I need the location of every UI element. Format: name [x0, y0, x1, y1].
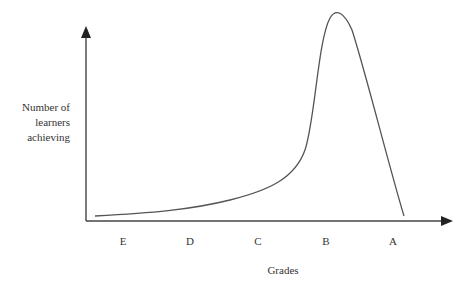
x-axis-arrow-icon	[441, 216, 453, 226]
y-axis-label-line: learners	[0, 115, 70, 130]
distribution-curve	[95, 13, 404, 216]
x-tick-label-d: D	[186, 235, 194, 247]
y-axis-label-line: achieving	[0, 130, 70, 145]
x-tick-label-a: A	[389, 235, 397, 247]
x-tick-label-b: B	[322, 235, 329, 247]
x-tick-label-e: E	[120, 235, 127, 247]
skewed-distribution-diagram	[0, 0, 473, 291]
x-tick-label-c: C	[254, 235, 261, 247]
x-axis-label: Grades	[267, 264, 298, 276]
y-axis-label-line: Number of	[0, 100, 70, 115]
y-axis-arrow-icon	[81, 26, 91, 38]
y-axis-label: Number of learners achieving	[0, 100, 70, 145]
